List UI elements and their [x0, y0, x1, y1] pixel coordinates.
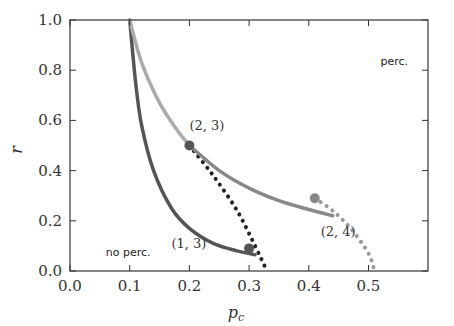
y-tick-label: 0.0 — [38, 262, 62, 280]
series-line — [130, 20, 255, 255]
y-axis-label: r — [7, 145, 26, 154]
x-tick-label: 0.1 — [118, 277, 142, 295]
y-tick-label: 0.8 — [38, 61, 62, 79]
region-label: no perc. — [106, 246, 151, 259]
curve-label: (2, 3) — [189, 118, 224, 133]
series-line — [189, 146, 267, 272]
critical-point-marker — [184, 141, 194, 151]
y-tick-label: 0.2 — [38, 212, 62, 230]
x-tick-label: 0.5 — [357, 277, 381, 295]
y-tick-label: 0.6 — [38, 111, 62, 129]
critical-point-marker — [244, 243, 254, 253]
x-tick-label: 0.3 — [237, 277, 261, 295]
series-line — [189, 146, 332, 216]
x-tick-label: 0.4 — [297, 277, 321, 295]
curve-label: (1, 3) — [171, 236, 206, 251]
y-tick-label: 0.4 — [38, 162, 62, 180]
x-tick-label: 0.2 — [177, 277, 201, 295]
phase-diagram-chart: 0.00.10.20.30.40.50.00.20.40.60.81.0 (2,… — [0, 0, 454, 326]
series-line — [130, 20, 190, 146]
region-label: perc. — [380, 55, 408, 68]
curve-label: (2, 4) — [321, 224, 356, 239]
y-tick-label: 1.0 — [38, 11, 62, 29]
x-axis-label: pc — [228, 303, 244, 324]
critical-point-marker — [310, 193, 320, 203]
